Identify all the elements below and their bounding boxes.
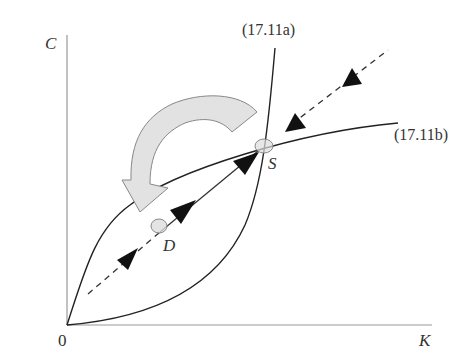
arrowhead-near-s xyxy=(233,152,259,175)
y-axis-label: C xyxy=(45,34,56,54)
diagram-svg xyxy=(0,0,474,360)
steady-state-label: S xyxy=(268,154,277,174)
saddle-path-upper-dashed xyxy=(292,50,388,124)
phase-diagram: C K 0 (17.11a) (17.11b) S D xyxy=(0,0,474,360)
jump-arrow xyxy=(122,96,257,212)
steady-state-marker xyxy=(255,139,273,153)
x-axis-label: K xyxy=(419,331,430,351)
curve-17-11a xyxy=(67,48,275,325)
arrowhead-lower-1 xyxy=(117,248,138,270)
curve-17-11b xyxy=(67,123,398,325)
curve-17-11b-label: (17.11b) xyxy=(394,126,448,144)
initial-point-label: D xyxy=(163,236,175,256)
curve-17-11a-label: (17.11a) xyxy=(242,21,295,39)
arrowhead-upper-2 xyxy=(342,68,362,87)
origin-label: 0 xyxy=(58,331,67,351)
initial-point-marker xyxy=(151,219,167,233)
